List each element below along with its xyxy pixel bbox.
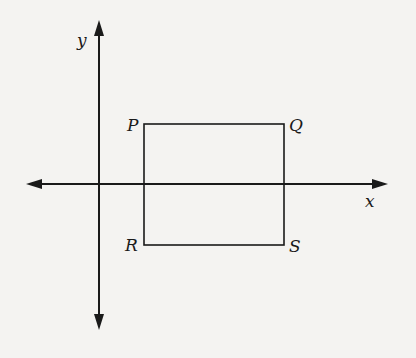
x-axis xyxy=(26,179,388,189)
coordinate-diagram: y x P Q R S xyxy=(0,0,416,358)
vertex-label-s: S xyxy=(289,236,301,256)
y-axis-down-arrow-icon xyxy=(94,314,104,330)
vertex-label-p: P xyxy=(126,115,139,135)
x-axis-label: x xyxy=(365,191,375,211)
y-axis-up-arrow-icon xyxy=(94,20,104,36)
y-axis xyxy=(94,20,104,330)
vertex-label-q: Q xyxy=(289,115,303,135)
x-axis-left-arrow-icon xyxy=(26,179,42,189)
y-axis-label: y xyxy=(76,30,87,50)
x-axis-right-arrow-icon xyxy=(372,179,388,189)
vertex-label-r: R xyxy=(124,235,138,255)
